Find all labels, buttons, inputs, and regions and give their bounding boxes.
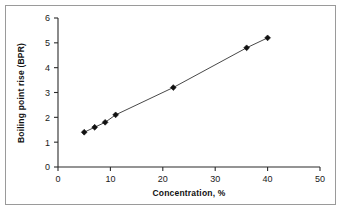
data-series [81, 35, 270, 135]
y-tick-label: 0 [45, 162, 50, 172]
x-axis: 01020304050 [55, 167, 325, 184]
y-tick-label: 6 [45, 13, 50, 23]
x-tick-label: 40 [263, 174, 273, 184]
data-point-marker [113, 112, 119, 118]
data-point-marker [170, 85, 176, 91]
y-axis-title: Boiling point rise (BPR) [16, 43, 26, 143]
series-line [84, 38, 267, 132]
chart-figure: 0123456 01020304050 Concentration, % Boi… [0, 0, 342, 212]
y-tick-label: 1 [45, 138, 50, 148]
data-point-marker [265, 35, 271, 41]
x-axis-title: Concentration, % [152, 188, 225, 198]
x-tick-label: 0 [55, 174, 60, 184]
data-point-marker [102, 119, 108, 125]
y-tick-label: 2 [45, 113, 50, 123]
data-point-marker [244, 45, 250, 51]
data-point-marker [92, 124, 98, 130]
y-tick-label: 5 [45, 38, 50, 48]
y-tick-label: 3 [45, 88, 50, 98]
chart-plot-area: 0123456 01020304050 Concentration, % Boi… [0, 0, 342, 212]
y-tick-label: 4 [45, 63, 50, 73]
x-tick-label: 50 [315, 174, 325, 184]
data-point-marker [81, 129, 87, 135]
y-axis: 0123456 [45, 13, 58, 172]
x-tick-label: 20 [158, 174, 168, 184]
x-tick-label: 10 [105, 174, 115, 184]
x-tick-label: 30 [210, 174, 220, 184]
